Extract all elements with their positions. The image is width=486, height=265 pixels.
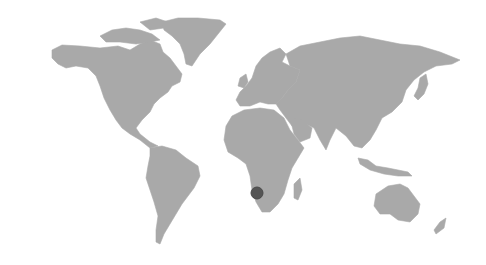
new-zealand bbox=[434, 218, 446, 234]
world-map bbox=[0, 0, 486, 265]
arctic-islands bbox=[100, 28, 160, 44]
australia bbox=[374, 184, 420, 222]
madagascar bbox=[294, 178, 302, 200]
south-america bbox=[146, 146, 200, 244]
greenland bbox=[162, 18, 226, 66]
location-marker[interactable] bbox=[251, 187, 263, 199]
north-america bbox=[52, 40, 182, 148]
indonesia bbox=[358, 158, 412, 176]
